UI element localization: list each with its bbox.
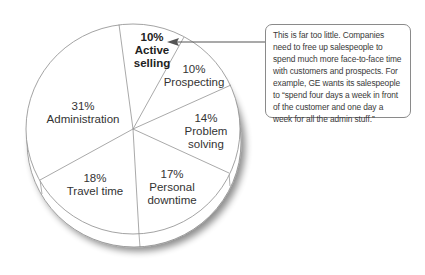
slice-name-line1: Travel time (67, 185, 123, 198)
slice-pct: 17% (147, 168, 196, 181)
slice-pct: 14% (185, 112, 228, 125)
slice-name-line1: Active (134, 44, 170, 57)
callout-text: This is far too little. Companies need t… (273, 30, 401, 124)
slice-pct: 31% (47, 100, 120, 113)
slice-label-travel-time: 18% Travel time (67, 172, 123, 198)
slice-name-line1: Administration (47, 113, 120, 126)
slice-name-line2: solving (185, 138, 228, 151)
slice-label-personal-downtime: 17% Personal downtime (147, 168, 196, 207)
slice-name-line1: Problem (185, 125, 228, 138)
slice-pct: 10% (134, 31, 170, 44)
slice-pct: 18% (67, 172, 123, 185)
slice-name-line1: Prospecting (164, 76, 225, 89)
slice-label-administration: 31% Administration (47, 100, 120, 126)
slice-label-prospecting: 10% Prospecting (164, 63, 225, 89)
slice-label-problem-solving: 14% Problem solving (185, 112, 228, 151)
slice-pct: 10% (164, 63, 225, 76)
slice-name-line1: Personal (147, 181, 196, 194)
slice-name-line2: downtime (147, 194, 196, 207)
callout-box: This is far too little. Companies need t… (265, 24, 411, 118)
